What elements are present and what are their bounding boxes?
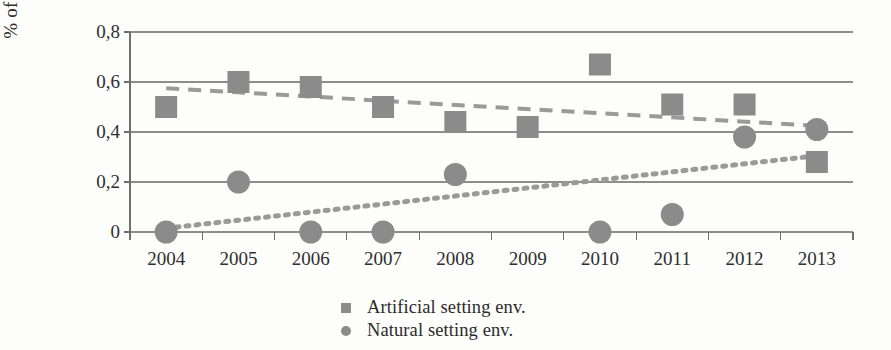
square-marker-icon: [341, 303, 367, 313]
x-tick-label: 2011: [632, 248, 712, 270]
y-axis-tick-labels: 0,8 0,6 0,4 0,2 0: [58, 0, 120, 350]
data-point-circle: [372, 221, 395, 244]
data-point-square: [227, 71, 249, 93]
plot-area: [130, 32, 853, 232]
y-tick-label: 0,4: [60, 121, 120, 143]
data-point-square: [734, 94, 756, 116]
legend-item-artificial-setting: Artificial setting env.: [341, 296, 671, 319]
trendline-artificial: [166, 88, 817, 126]
y-axis-title: % of publications: [0, 0, 40, 70]
y-tick-label: 0,6: [60, 71, 120, 93]
data-point-circle: [588, 221, 611, 244]
y-tick-label: 0: [60, 221, 120, 243]
x-tick-label: 2009: [488, 248, 568, 270]
data-point-square: [300, 76, 322, 98]
data-point-circle: [227, 171, 250, 194]
trendline-natural: [166, 156, 817, 229]
data-point-circle: [661, 203, 684, 226]
circle-marker-icon: [341, 326, 367, 336]
legend-item-label: Artificial setting env.: [367, 297, 526, 318]
legend-item-natural-setting: Natural setting env.: [341, 319, 671, 342]
data-point-square: [444, 111, 466, 133]
x-tick-label: 2004: [126, 248, 206, 270]
chart-legend: Artificial setting env. Natural setting …: [341, 296, 671, 342]
data-point-circle: [733, 126, 756, 149]
x-tick-label: 2007: [343, 248, 423, 270]
y-tick-label: 0,2: [60, 171, 120, 193]
data-point-circle: [444, 163, 467, 186]
plot-canvas: [130, 32, 853, 232]
legend-item-label: Natural setting env.: [367, 320, 513, 341]
x-axis-tick-labels: 2004200520062007200820092010201120122013: [130, 248, 853, 278]
data-point-circle: [299, 221, 322, 244]
data-point-square: [155, 96, 177, 118]
data-point-square: [589, 54, 611, 76]
data-point-square: [806, 151, 828, 173]
x-tick-label: 2008: [415, 248, 495, 270]
chart-figure: % of publications 0,8 0,6 0,4 0,2 0 2004…: [0, 0, 891, 350]
x-tick-label: 2005: [198, 248, 278, 270]
data-point-square: [372, 96, 394, 118]
x-tick-label: 2012: [705, 248, 785, 270]
x-tick-label: 2010: [560, 248, 640, 270]
data-point-square: [517, 116, 539, 138]
data-point-circle: [155, 221, 178, 244]
data-point-square: [661, 94, 683, 116]
data-point-circle: [805, 118, 828, 141]
x-tick-label: 2013: [777, 248, 857, 270]
y-tick-label: 0,8: [60, 21, 120, 43]
x-tick-label: 2006: [271, 248, 351, 270]
